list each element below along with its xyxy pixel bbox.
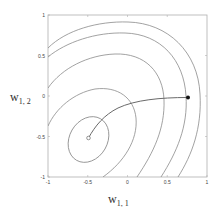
contour-level-4 [48, 33, 186, 177]
x-tick-marks [48, 15, 207, 177]
x-tick-label: -1 [46, 179, 51, 185]
contour-lines [48, 22, 200, 177]
y-tick-label: -0.5 [36, 134, 45, 140]
trajectory-line [89, 98, 189, 139]
x-tick-label: 0.5 [164, 179, 171, 185]
x-tick-labels: -1 -0.5 0 0.5 1 [46, 179, 209, 185]
y-tick-label: 0 [42, 93, 45, 99]
y-axis-label: w1, 2 [10, 90, 31, 106]
y-tick-label: 0.5 [38, 53, 45, 59]
x-tick-label: 0 [126, 179, 129, 185]
y-tick-label: 1 [42, 12, 45, 18]
y-tick-label: -1 [41, 174, 46, 180]
contour-plot: -1 -0.5 0 0.5 1 1 0.5 0 -0.5 -1 w1, 1 w1… [0, 0, 224, 214]
x-tick-label: -0.5 [83, 179, 92, 185]
minimum-point-marker [87, 136, 91, 140]
start-point-marker [186, 96, 190, 100]
x-tick-label: 1 [206, 179, 209, 185]
plot-frame [48, 15, 207, 177]
x-axis-label: w1, 1 [108, 192, 129, 208]
y-tick-marks [48, 15, 207, 177]
y-tick-labels: 1 0.5 0 -0.5 -1 [36, 12, 45, 180]
